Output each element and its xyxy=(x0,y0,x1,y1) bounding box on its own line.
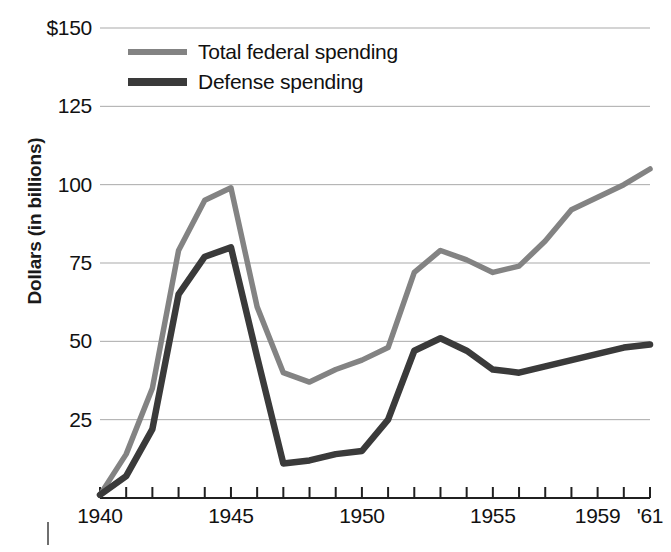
legend-swatch-total xyxy=(128,49,187,55)
y-tick-label-text: 25 xyxy=(30,409,92,430)
x-tick-label: 1955 xyxy=(443,505,543,527)
y-tick-label-text: 100 xyxy=(30,174,92,195)
legend-label-defense: Defense spending xyxy=(198,70,363,94)
x-axis-ticks xyxy=(100,487,650,498)
y-tick-label-text: 75 xyxy=(30,252,92,273)
series-line-total-federal-spending xyxy=(100,169,650,495)
legend-item-defense: Defense spending xyxy=(128,70,363,94)
x-tick-label: '61 xyxy=(600,505,671,527)
y-tick-label-text: 125 xyxy=(30,95,92,116)
series-line-defense-spending xyxy=(100,247,650,495)
x-tick-label: 1945 xyxy=(181,505,281,527)
legend-label-total: Total federal spending xyxy=(198,40,398,64)
spending-line-chart: Dollars (in billions) $150125100755025 1… xyxy=(0,0,671,552)
legend-swatch-defense xyxy=(128,78,187,86)
page-margin-mark xyxy=(47,522,49,545)
series-lines xyxy=(100,169,650,495)
x-tick-label: 1940 xyxy=(50,505,150,527)
x-tick-label: 1950 xyxy=(312,505,412,527)
legend-item-total: Total federal spending xyxy=(128,40,398,64)
y-tick-label-text: 50 xyxy=(30,330,92,351)
y-tick-label-text: $150 xyxy=(30,17,92,38)
